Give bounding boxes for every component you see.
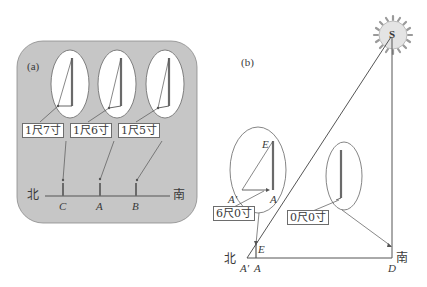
gnomon-ellipse-b <box>146 50 184 118</box>
point-e-label: E <box>258 243 265 255</box>
point-c-label: C <box>59 200 66 212</box>
inset-a-label: A <box>270 193 277 205</box>
north-label-b: 北 <box>224 253 236 265</box>
panel-b-tag: (b) <box>241 56 254 68</box>
point-d-label: D <box>388 262 396 274</box>
point-a-label-b: A <box>254 262 261 274</box>
shadow-label-a-prime: 6尺0寸 <box>213 206 255 221</box>
shadow-label-c: 1尺7寸 <box>22 123 64 138</box>
gnomon-ellipse-a-prime <box>230 127 286 213</box>
north-label-a: 北 <box>27 189 39 201</box>
point-a-prime-label: A′ <box>240 262 249 274</box>
gnomon-ellipse-d <box>326 142 362 210</box>
point-a-label: A <box>96 200 103 212</box>
sun-label: S <box>389 28 395 40</box>
inset-e-label: E <box>262 138 269 150</box>
diagram-canvas <box>0 0 427 287</box>
inset-a-prime-label: A′ <box>228 193 237 205</box>
panel-a-tag: (a) <box>27 60 39 72</box>
point-b-label: B <box>132 200 139 212</box>
shadow-label-a: 1尺6寸 <box>70 123 112 138</box>
shadow-label-d: 0尺0寸 <box>287 210 329 225</box>
south-label-a: 南 <box>173 189 185 201</box>
gnomon-ellipse-a <box>98 50 136 118</box>
gnomon-ellipse-c <box>51 50 89 118</box>
shadow-label-b: 1尺5寸 <box>118 123 160 138</box>
south-label-b: 南 <box>396 252 408 264</box>
